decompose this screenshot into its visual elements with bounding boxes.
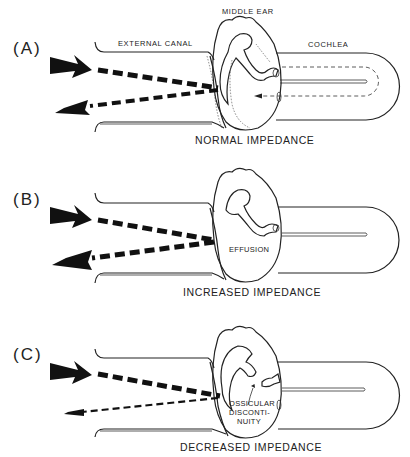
panel-label-b: (B) xyxy=(13,190,42,209)
panel-label-c: (C) xyxy=(13,345,43,364)
ossicular-label-3: NUITY xyxy=(237,417,261,426)
cochlea-outline xyxy=(278,207,399,273)
panel-b: (B) EFFUSION INCREASED IMPEDANCE xyxy=(13,168,399,298)
impedance-diagram: (A) MIDDLE EAR EXTERNAL CANAL COCHLEA NO… xyxy=(0,0,410,457)
external-canal-bottom xyxy=(95,122,224,132)
stapes xyxy=(262,374,280,387)
reflected-arrow-small-icon xyxy=(64,409,84,416)
incident-sound-path xyxy=(98,70,218,88)
cochlea-outline xyxy=(276,53,399,120)
reflected-sound-path xyxy=(90,90,218,106)
cochlea-outline xyxy=(278,362,400,429)
cochlea-partition xyxy=(280,80,367,83)
ossicular-label-1: OSSICULAR xyxy=(229,399,275,408)
reflected-arrow-icon xyxy=(52,250,92,270)
caption-b: INCREASED IMPEDANCE xyxy=(183,286,321,298)
cochlea-arrowhead-icon xyxy=(254,94,262,99)
external-canal-label: EXTERNAL CANAL xyxy=(118,39,193,48)
panel-label-a: (A) xyxy=(13,39,42,58)
cochlea-label: COCHLEA xyxy=(308,40,348,49)
ossicular-label-2: DISCONTI- xyxy=(229,408,270,417)
panel-a: (A) MIDDLE EAR EXTERNAL CANAL COCHLEA NO… xyxy=(13,7,399,146)
middle-ear-label: MIDDLE EAR xyxy=(222,7,274,16)
effusion-label: EFFUSION xyxy=(229,245,269,254)
incident-arrow-icon xyxy=(50,205,92,228)
panel-c: (C) OSSICULAR DISCONTI- NUITY DECREASED … xyxy=(13,326,400,453)
ossicles xyxy=(220,34,278,104)
caption-c: DECREASED IMPEDANCE xyxy=(180,441,322,453)
caption-a: NORMAL IMPEDANCE xyxy=(195,134,314,146)
incident-arrow-icon xyxy=(50,55,92,78)
incident-arrow-icon xyxy=(50,361,92,384)
ossicles xyxy=(226,190,278,236)
reflected-arrow-icon xyxy=(55,100,90,115)
